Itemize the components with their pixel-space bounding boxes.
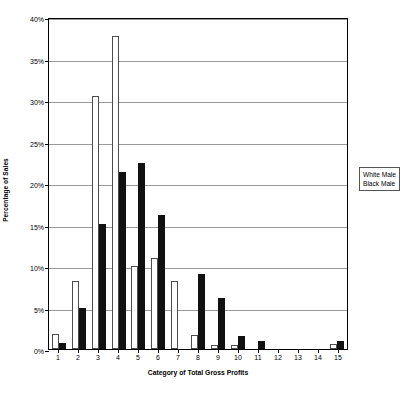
bar-group (248, 19, 268, 349)
x-tick-label: 4 (108, 350, 128, 364)
bar-black-male-8 (198, 274, 205, 349)
x-tick-mark (58, 350, 59, 353)
bar-black-male-15 (337, 341, 344, 349)
x-axis-ticks: 123456789101112131415 (48, 350, 348, 364)
y-tick-label: 5% (4, 306, 49, 313)
x-tick-mark (98, 350, 99, 353)
bar-white-male-5 (131, 266, 138, 349)
y-tick-label: 40% (4, 16, 49, 23)
x-tick-mark (198, 350, 199, 353)
bar-black-male-6 (158, 215, 165, 349)
y-tick-label: 20% (4, 182, 49, 189)
bar-black-male-1 (59, 343, 66, 349)
bar-black-male-4 (119, 172, 126, 349)
x-tick-label: 8 (188, 350, 208, 364)
bar-white-male-1 (52, 334, 59, 349)
bar-group (168, 19, 188, 349)
x-tick-mark (258, 350, 259, 353)
bar-white-male-8 (191, 335, 198, 349)
y-tick-label: 25% (4, 140, 49, 147)
y-tick-label: 0% (4, 348, 49, 355)
x-tick-label: 14 (308, 350, 328, 364)
bar-white-male-7 (171, 281, 178, 349)
bar-white-male-9 (211, 345, 218, 349)
x-tick-mark (158, 350, 159, 353)
plot-area: 0%5%10%15%20%25%30%35%40% (48, 18, 348, 350)
bar-black-male-9 (218, 298, 225, 349)
bar-group (228, 19, 248, 349)
bar-group (128, 19, 148, 349)
x-tick-mark (178, 350, 179, 353)
x-tick-label: 5 (128, 350, 148, 364)
bar-black-male-10 (238, 336, 245, 349)
x-tick-label: 11 (248, 350, 268, 364)
y-axis-title: Percentage of Sales (2, 10, 9, 130)
bar-white-male-10 (231, 345, 238, 349)
chart-figure: Percentage of Sales 0%5%10%15%20%25%30%3… (0, 0, 419, 402)
bar-group (208, 19, 228, 349)
x-tick-label: 1 (48, 350, 68, 364)
x-tick-label: 15 (328, 350, 348, 364)
x-tick-label: 6 (148, 350, 168, 364)
x-tick-mark (238, 350, 239, 353)
bar-group (49, 19, 69, 349)
figure-caption (40, 392, 380, 400)
y-tick-label: 30% (4, 99, 49, 106)
x-tick-label: 2 (68, 350, 88, 364)
bar-white-male-6 (151, 258, 158, 349)
legend-item-white-male: White Male (363, 170, 396, 179)
bar-group (307, 19, 327, 349)
bar-black-male-3 (99, 224, 106, 349)
bar-group (89, 19, 109, 349)
chart-legend: White Male Black Male (359, 167, 400, 191)
bar-group (287, 19, 307, 349)
x-tick-mark (298, 350, 299, 353)
x-tick-label: 9 (208, 350, 228, 364)
bar-group (148, 19, 168, 349)
y-tick-label: 35% (4, 57, 49, 64)
x-tick-mark (138, 350, 139, 353)
bar-groups (49, 19, 347, 349)
bar-white-male-3 (92, 96, 99, 349)
x-tick-mark (318, 350, 319, 353)
x-tick-mark (338, 350, 339, 353)
x-tick-label: 3 (88, 350, 108, 364)
legend-item-black-male: Black Male (363, 179, 396, 188)
x-tick-label: 12 (268, 350, 288, 364)
y-tick-label: 10% (4, 265, 49, 272)
bar-group (109, 19, 129, 349)
y-tick-label: 15% (4, 223, 49, 230)
bar-group (327, 19, 347, 349)
bar-group (267, 19, 287, 349)
x-tick-label: 10 (228, 350, 248, 364)
x-tick-label: 7 (168, 350, 188, 364)
bar-black-male-11 (258, 341, 265, 349)
bar-group (69, 19, 89, 349)
x-tick-mark (78, 350, 79, 353)
bar-white-male-2 (72, 281, 79, 349)
bar-black-male-5 (138, 163, 145, 349)
x-tick-label: 13 (288, 350, 308, 364)
x-tick-mark (218, 350, 219, 353)
bar-white-male-4 (112, 36, 119, 349)
bar-group (188, 19, 208, 349)
bar-white-male-15 (330, 344, 337, 349)
x-tick-mark (118, 350, 119, 353)
x-axis-title: Category of Total Gross Profits (48, 369, 348, 376)
x-tick-mark (278, 350, 279, 353)
bar-black-male-2 (79, 308, 86, 350)
